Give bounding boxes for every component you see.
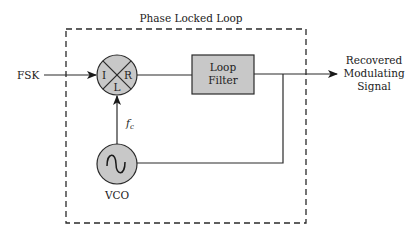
mixer-port-l: L	[114, 81, 121, 93]
fc-label: fc	[125, 117, 134, 131]
output-label-line1: Recovered	[346, 54, 403, 66]
output-label-line3: Signal	[357, 80, 391, 92]
loop-filter-label-line2: Filter	[208, 74, 238, 86]
mixer-port-i: I	[102, 69, 106, 81]
input-label-fsk: FSK	[17, 69, 39, 81]
loop-filter-block: Loop Filter	[192, 55, 254, 94]
fc-label-sub: c	[130, 123, 134, 131]
mixer-phase-detector: I R L	[97, 55, 137, 95]
mixer-port-r: R	[124, 69, 133, 81]
diagram-title: Phase Locked Loop	[139, 12, 242, 24]
vco-block	[97, 144, 137, 184]
vco-label: VCO	[104, 189, 130, 201]
pll-block-diagram: Phase Locked Loop FSK I R L Loop Filter	[0, 0, 416, 240]
output-label-line2: Modulating	[343, 67, 405, 79]
pll-boundary	[66, 29, 306, 223]
loop-filter-label-line1: Loop	[210, 61, 237, 73]
